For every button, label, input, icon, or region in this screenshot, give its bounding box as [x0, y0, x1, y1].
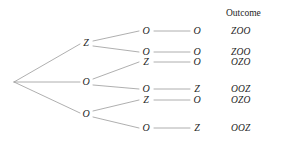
- level2-node-o-3: O: [142, 84, 149, 94]
- outcome-value-4: OZO: [231, 95, 251, 105]
- level2-node-z-4: Z: [143, 95, 149, 105]
- tree-edge: [93, 100, 139, 111]
- outcome-value-3: OOZ: [231, 84, 251, 94]
- tree-edge: [93, 117, 139, 128]
- level1-node-o-2: O: [82, 109, 89, 119]
- outcome-value-1: ZOO: [231, 47, 251, 57]
- level1-node-z-0: Z: [83, 38, 89, 48]
- tree-edge: [14, 82, 80, 113]
- level3-node-o-4: O: [193, 95, 200, 105]
- level2-node-o-0: O: [142, 26, 149, 36]
- outcome-value-5: OOZ: [231, 123, 251, 133]
- tree-edge: [93, 46, 139, 52]
- probability-tree-figure: ZOOOOZOZOOOOZOZZOOZOOOZOOOZOZOOOZ Outcom…: [0, 0, 289, 143]
- tree-edge: [93, 62, 139, 79]
- level3-node-z-3: Z: [194, 84, 200, 94]
- outcome-value-2: OZO: [231, 57, 251, 67]
- tree-edge: [14, 44, 80, 82]
- edge-group: [14, 31, 190, 128]
- level1-node-o-1: O: [82, 77, 89, 87]
- level3-node-z-5: Z: [194, 123, 200, 133]
- level3-node-o-2: O: [193, 57, 200, 67]
- tree-edge: [93, 31, 139, 41]
- level2-node-o-5: O: [142, 123, 149, 133]
- tree-edge: [93, 85, 139, 89]
- level3-node-o-0: O: [193, 26, 200, 36]
- level2-node-z-2: Z: [143, 57, 149, 67]
- outcome-value-0: ZOO: [231, 26, 251, 36]
- outcome-column-header: Outcome: [226, 8, 261, 18]
